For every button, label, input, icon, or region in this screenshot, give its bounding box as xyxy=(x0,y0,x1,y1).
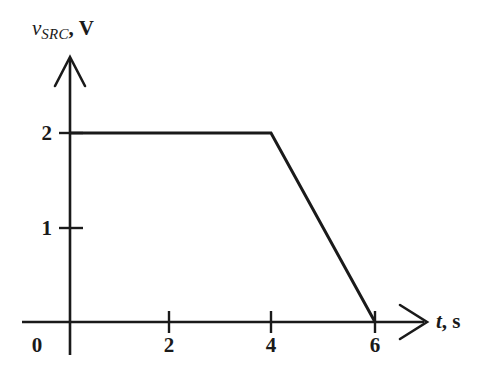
y-tick-label-2: 2 xyxy=(28,123,52,144)
y-axis-title: vSRC, V xyxy=(32,18,94,42)
y-axis-subscript: SRC xyxy=(41,26,68,42)
y-axis-variable: v xyxy=(32,16,41,40)
y-tick-label-1: 1 xyxy=(28,218,52,239)
y-axis-separator: , xyxy=(69,16,79,40)
x-tick-label-0: 0 xyxy=(32,335,43,356)
waveform-figure: vSRC, V t, s 0 2 4 6 2 1 xyxy=(0,0,497,376)
x-tick-label-4: 4 xyxy=(266,335,277,356)
x-tick-label-6: 6 xyxy=(370,335,381,356)
x-axis-separator: , xyxy=(442,309,453,333)
x-tick-label-2: 2 xyxy=(164,335,175,356)
x-axis-title: t, s xyxy=(436,311,461,332)
x-axis-unit: s xyxy=(452,309,460,333)
y-axis-unit: V xyxy=(79,16,94,40)
plot-canvas xyxy=(0,0,497,376)
